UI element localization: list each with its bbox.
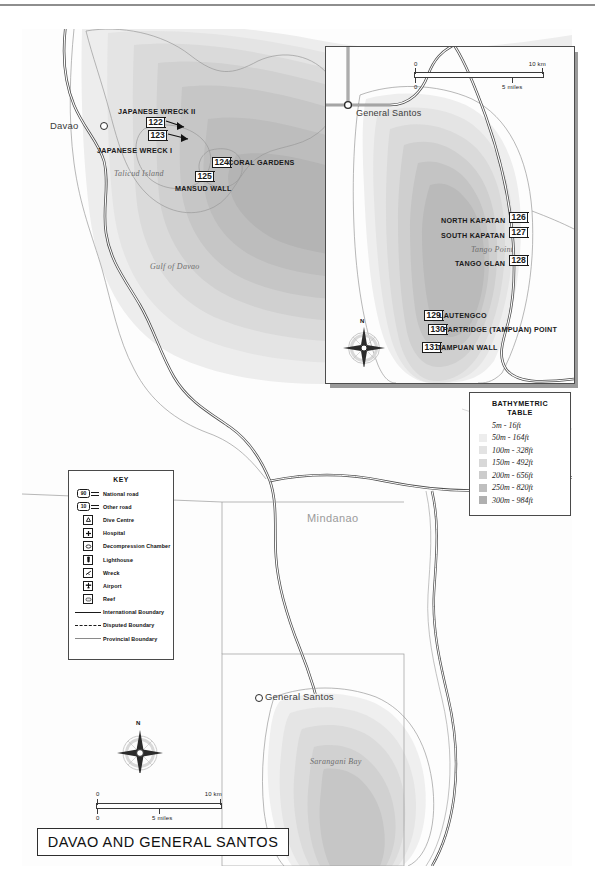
dive-centre-icon <box>83 515 93 525</box>
scale-mi-mid-main: 5 miles <box>152 815 172 821</box>
scale-tick-km-end <box>220 799 221 805</box>
key-row: International Boundary <box>69 606 173 619</box>
road-shield-icon: 10 <box>73 500 103 513</box>
decompression-chamber-icon-icon <box>73 540 103 553</box>
bathymetric-row: 300m - 984ft <box>470 494 570 507</box>
inset-town-dot-general-santos <box>345 102 352 109</box>
dive-centre-icon-icon <box>73 513 103 526</box>
inset-scale-mi-zero: 0 <box>414 84 418 90</box>
bathymetric-table: BATHYMETRIC TABLE 5m - 16ft50m - 164ft10… <box>469 392 571 516</box>
scale-mi-zero-main: 0 <box>96 815 100 821</box>
wreck-leader-arrows <box>162 115 232 155</box>
inset-scale-track <box>414 72 544 78</box>
inset-scale-mi-mid: 5 miles <box>502 84 522 90</box>
key-row: Hospital <box>69 527 173 540</box>
wreck-icon-icon <box>73 566 103 579</box>
place-label-davao: Davao <box>50 121 78 131</box>
key-row: Reef <box>69 593 173 606</box>
hospital-icon <box>83 528 93 538</box>
water-label-sarangani-bay: Sarangani Bay <box>310 758 362 766</box>
bathymetric-swatch <box>479 434 487 442</box>
key-row-label: Disputed Boundary <box>103 622 154 628</box>
compass-rose-main: N <box>114 721 166 773</box>
road-shield-icon: 90 <box>73 487 103 500</box>
road-shield-icon: 90 <box>77 489 90 498</box>
key-row: Wreck <box>69 566 173 579</box>
bathymetric-swatch <box>479 459 487 467</box>
thin-line-icon <box>73 632 103 645</box>
key-row-label: Other road <box>103 504 132 510</box>
key-row-label: National road <box>103 491 139 497</box>
map-key-legend: KEY 90National road10Other roadDive Cent… <box>68 470 174 660</box>
bathymetric-title-line2: TABLE <box>507 408 532 417</box>
scale-bar-main: 0 10 km 0 5 miles <box>96 791 222 825</box>
inset-site-marker-126[interactable]: 126 <box>509 212 528 223</box>
bathymetric-title-line1: BATHYMETRIC <box>492 399 548 408</box>
inset-scale-tick-km-start <box>415 68 416 74</box>
site-label-coral-gardens: CORAL GARDENS <box>228 159 295 166</box>
bathymetric-row: 250m - 820ft <box>470 482 570 495</box>
road-shield-icon: 10 <box>77 502 90 511</box>
map-title-text: DAVAO AND GENERAL SANTOS <box>48 834 279 850</box>
solid-line-icon <box>73 606 103 619</box>
key-row-label: Airport <box>103 583 122 589</box>
island-label-talicud-island: Talicud Island <box>114 170 164 178</box>
site-marker-125[interactable]: 125 <box>195 171 214 182</box>
bathymetric-depth-label: 150m - 492ft <box>492 458 533 467</box>
inset-site-label-north-kapatan: NORTH KAPATAN <box>441 217 505 224</box>
road-line-icon <box>91 505 99 509</box>
inset-site-label-lautengco: LAUTENGCO <box>439 312 487 319</box>
bathymetric-row: 100m - 328ft <box>470 444 570 457</box>
bathymetric-table-title: BATHYMETRIC TABLE <box>470 393 570 419</box>
inset-site-label-partridge-tampuan-point: PARTRIDGE (TAMPUAN) POINT <box>443 326 557 333</box>
town-dot-general-santos <box>255 694 263 702</box>
site-label-mansud-wall: MANSUD WALL <box>175 185 232 192</box>
key-row: 90National road <box>69 487 173 500</box>
inset-place-label-general-santos: General Santos <box>356 109 421 118</box>
inset-scale-tick-mi-mid <box>512 77 513 83</box>
bathymetric-depth-label: 300m - 984ft <box>492 496 533 505</box>
key-row-label: Reef <box>103 596 115 602</box>
bathymetric-depth-label: 200m - 656ft <box>492 471 533 480</box>
bathymetric-rows: 5m - 16ft50m - 164ft100m - 328ft150m - 4… <box>470 419 570 507</box>
hospital-icon-icon <box>73 527 103 540</box>
key-title: KEY <box>69 471 173 487</box>
inset-scale-km-max: 10 km <box>529 61 546 67</box>
decompression-chamber-icon <box>83 541 93 551</box>
bathymetric-row: 200m - 656ft <box>470 469 570 482</box>
compass-rose-inset: N <box>340 319 388 367</box>
lighthouse-icon <box>83 555 93 565</box>
water-label-gulf-of-davao: Gulf of Davao <box>150 263 200 271</box>
inset-site-label-tampuan-wall: TAMPUAN WALL <box>437 344 498 351</box>
airport-icon <box>83 581 93 591</box>
dashed-line-icon <box>73 619 103 632</box>
inset-site-marker-128[interactable]: 128 <box>509 255 528 266</box>
key-row-label: Decompression Chamber <box>103 543 170 549</box>
bathymetric-depth-label: 5m - 16ft <box>492 421 521 430</box>
key-row: Provincial Boundary <box>69 632 173 645</box>
inset-map-general-santos: General Santos 0 10 km 0 5 miles NORTH K… <box>325 46 575 384</box>
bathymetric-depth-label: 100m - 328ft <box>492 446 533 455</box>
bathymetric-row: 150m - 492ft <box>470 457 570 470</box>
map-title-plate: DAVAO AND GENERAL SANTOS <box>37 828 289 856</box>
scale-tick-km-start <box>97 799 98 805</box>
key-row: Lighthouse <box>69 553 173 566</box>
key-rows: 90National road10Other roadDive CentreHo… <box>69 487 173 645</box>
inset-site-marker-127[interactable]: 127 <box>509 227 528 238</box>
key-row-label: International Boundary <box>103 609 164 615</box>
key-row: Decompression Chamber <box>69 540 173 553</box>
key-row-label: Wreck <box>103 570 120 576</box>
inset-site-label-south-kapatan: SOUTH KAPATAN <box>441 232 505 239</box>
wreck-icon <box>83 568 93 578</box>
scale-km-max-main: 10 km <box>205 791 222 797</box>
bathymetric-depth-label: 50m - 164ft <box>492 433 529 442</box>
key-row-label: Dive Centre <box>103 517 134 523</box>
international-boundary-icon <box>75 612 101 613</box>
scale-tick-mi-mid <box>159 808 160 814</box>
key-row: Dive Centre <box>69 513 173 526</box>
reef-icon <box>83 594 93 604</box>
bathymetric-swatch <box>479 446 487 454</box>
place-label-general-santos: General Santos <box>265 692 334 702</box>
bathymetric-swatch <box>479 471 487 479</box>
bathymetric-swatch <box>479 421 487 429</box>
